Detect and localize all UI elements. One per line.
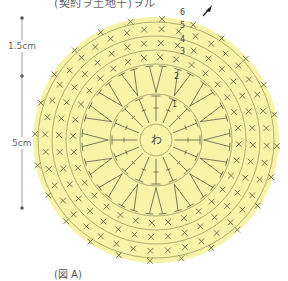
center-ring-label: わ: [151, 134, 162, 147]
dimension-label-1-5cm: 1.5cm: [8, 40, 36, 52]
row-number-6: 6: [180, 8, 185, 17]
figure-caption: (図 A): [54, 266, 82, 281]
row-number-1: 1: [172, 100, 177, 109]
row-number-2: 2: [174, 72, 179, 81]
row-number-5: 5: [180, 21, 185, 30]
dimension-label-5cm: 5cm: [12, 137, 31, 149]
row-number-4: 4: [180, 35, 185, 44]
row-number-3: 3: [180, 47, 185, 56]
